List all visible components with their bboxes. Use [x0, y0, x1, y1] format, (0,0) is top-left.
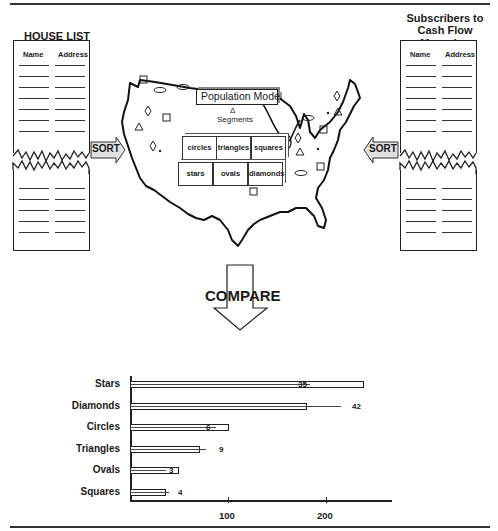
- chart-data-label: 42: [352, 402, 361, 411]
- segment-cube-label: squares: [252, 143, 285, 152]
- chart-x-tick: [228, 497, 229, 503]
- house-list-top: NameAddress: [13, 40, 90, 153]
- chart-bar-inner-line: [130, 406, 307, 407]
- house-list-row-line: [55, 221, 85, 222]
- subscribers-row-line: [406, 65, 436, 66]
- chart-bar-inner-line: [130, 427, 216, 428]
- subscribers-row-line: [406, 98, 436, 99]
- chart-category-label: Ovals: [20, 464, 120, 475]
- subscribers-row-line: [406, 232, 436, 233]
- house-list-row-line: [55, 210, 85, 211]
- subscribers-row-line: [406, 109, 436, 110]
- subscribers-row-line: [442, 65, 472, 66]
- subscribers-list-bottom: [400, 170, 477, 251]
- house-list-row-line: [19, 188, 49, 189]
- compare-label: COMPARE: [205, 287, 281, 304]
- chart-leader-line: [307, 406, 341, 407]
- subscribers-row-line: [406, 210, 436, 211]
- chart-data-label: 6: [206, 423, 210, 432]
- chart-leader-line: [166, 492, 169, 493]
- segment-cube-diamonds: diamonds: [248, 162, 283, 186]
- segment-cube-label: stars: [179, 169, 212, 178]
- subscribers-row-line: [442, 221, 472, 222]
- top-rule: [10, 3, 490, 5]
- house-list-row-line: [19, 76, 49, 77]
- chart-bar-inner-line: [130, 492, 166, 493]
- subscribers-row-line: [442, 131, 472, 132]
- subscribers-row-line: [442, 199, 472, 200]
- chart-data-label: 35: [298, 380, 307, 389]
- house-list-row-line: [55, 87, 85, 88]
- subscribers-row-line: [442, 120, 472, 121]
- chart-category-label: Diamonds: [20, 400, 120, 411]
- subscribers-row-line: [442, 98, 472, 99]
- chart-category-label: Circles: [20, 421, 120, 432]
- subscribers-row-line: [442, 87, 472, 88]
- house-list-tear-icon: [10, 148, 92, 176]
- subscribers-row-line: [442, 232, 472, 233]
- bottom-rule: [10, 526, 490, 528]
- house-list-row-line: [55, 98, 85, 99]
- chart-data-label: 9: [219, 445, 223, 454]
- chart-y-axis: [130, 376, 132, 500]
- house-list-row-line: [55, 199, 85, 200]
- house-list-row-line: [55, 188, 85, 189]
- subscribers-row-line: [442, 188, 472, 189]
- house-list-row-line: [55, 131, 85, 132]
- chart-bar-inner-line: [130, 470, 166, 471]
- house-list-column-header-address: Address: [58, 50, 88, 59]
- chart-data-label: 4: [178, 488, 182, 497]
- subscribers-row-line: [406, 188, 436, 189]
- subscribers-list-tear-icon: [397, 148, 479, 176]
- segment-cube-ovals: ovals: [213, 162, 248, 186]
- chart-x-tick: [326, 497, 327, 503]
- house-list-row-line: [19, 221, 49, 222]
- chart-x-tick-label: 200: [317, 510, 333, 521]
- chart-leader-line: [200, 449, 206, 450]
- segment-cube-stars: stars: [178, 162, 213, 186]
- segment-cube-circles: circles: [182, 136, 217, 160]
- segment-cube-label: circles: [183, 143, 216, 152]
- house-list-row-line: [55, 65, 85, 66]
- subscribers-column-header-name: Name: [410, 50, 430, 59]
- segment-cube-squares: squares: [251, 136, 286, 160]
- segment-cube-triangles: triangles: [216, 136, 251, 160]
- subscribers-row-line: [406, 76, 436, 77]
- house-list-row-line: [55, 232, 85, 233]
- segments-symbol: Δ: [230, 106, 235, 115]
- house-list-row-line: [55, 76, 85, 77]
- subscribers-row-line: [406, 199, 436, 200]
- house-list-row-line: [19, 199, 49, 200]
- population-model-label: Population Model: [201, 90, 282, 102]
- subscribers-row-line: [442, 109, 472, 110]
- house-list-bottom: [13, 170, 90, 251]
- subscribers-row-line: [406, 120, 436, 121]
- subscribers-row-line: [406, 221, 436, 222]
- chart-x-axis: [130, 500, 392, 502]
- chart-x-tick-label: 100: [219, 510, 235, 521]
- right-sort-label: SORT: [369, 143, 397, 154]
- house-list-row-line: [19, 109, 49, 110]
- house-list-row-line: [19, 65, 49, 66]
- house-list-row-line: [19, 210, 49, 211]
- subscribers-column-header-address: Address: [445, 50, 475, 59]
- house-list-row-line: [55, 109, 85, 110]
- house-list-row-line: [19, 232, 49, 233]
- subscribers-row-line: [406, 87, 436, 88]
- house-list-row-line: [19, 120, 49, 121]
- house-list-row-line: [19, 131, 49, 132]
- house-list-column-header-name: Name: [23, 50, 43, 59]
- house-list-row-line: [19, 98, 49, 99]
- subscribers-row-line: [406, 131, 436, 132]
- subscribers-row-line: [442, 210, 472, 211]
- chart-data-label: 3: [169, 466, 173, 475]
- segment-cube-label: ovals: [214, 169, 247, 178]
- house-list-row-line: [55, 120, 85, 121]
- subscribers-row-line: [442, 76, 472, 77]
- subscribers-list-top: NameAddress: [400, 40, 477, 153]
- chart-bar-inner-line: [130, 449, 200, 450]
- segment-cube-label: diamonds: [249, 169, 282, 178]
- segment-cube-label: triangles: [217, 143, 250, 152]
- chart-category-label: Triangles: [20, 443, 120, 454]
- chart-bar-inner-line: [130, 384, 310, 385]
